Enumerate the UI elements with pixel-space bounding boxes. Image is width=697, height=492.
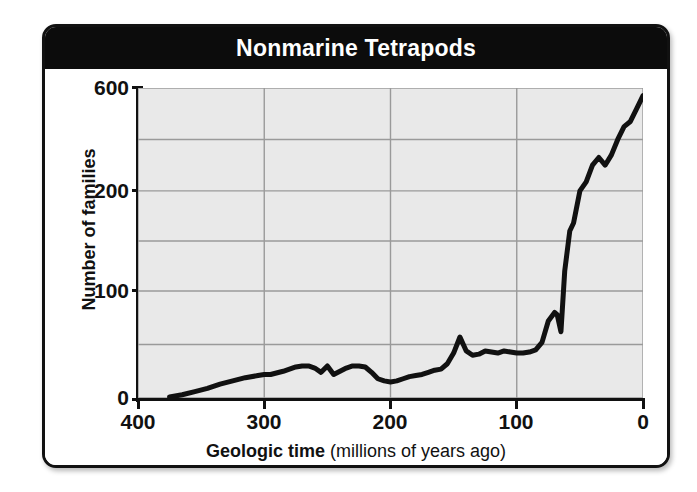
x-tick-mark-400 — [137, 398, 140, 409]
x-tick-label-400: 400 — [98, 410, 178, 434]
page-title: Nonmarine Tetrapods — [236, 35, 476, 62]
y-axis-title: Number of families — [79, 120, 100, 340]
y-tick-label-600: 600 — [49, 76, 129, 100]
x-tick-label-100: 100 — [476, 410, 556, 434]
x-tick-label-0: 0 — [603, 410, 670, 434]
x-tick-mark-0 — [642, 398, 645, 409]
data-series-line — [170, 96, 643, 397]
x-tick-label-300: 300 — [224, 410, 304, 434]
x-tick-mark-300 — [263, 398, 266, 409]
x-tick-label-200: 200 — [350, 410, 430, 434]
x-tick-mark-200 — [389, 398, 392, 409]
x-axis-title: Geologic time (millions of years ago) — [45, 441, 667, 462]
x-axis-title-sub: (millions of years ago) — [330, 441, 506, 461]
plot-area — [138, 88, 643, 398]
chart-title-bar: Nonmarine Tetrapods — [45, 27, 667, 69]
x-axis-title-main: Geologic time — [206, 441, 325, 461]
y-tick-label-0: 0 — [49, 386, 129, 410]
x-tick-mark-100 — [515, 398, 518, 409]
plot-body: 600 200 100 0 400 300 200 100 0 Number o… — [45, 69, 667, 468]
chart-svg — [138, 88, 643, 398]
figure-card: Nonmarine Tetrapods 600 200 100 0 400 30… — [42, 24, 670, 468]
